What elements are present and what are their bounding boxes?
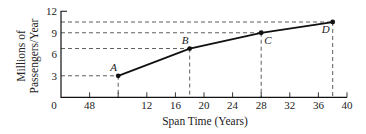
tick-labels: 481216202428323640036912 [46,5,353,111]
y-axis-title-line-2: Passengers/Year [28,18,41,93]
y-tick-label: 9 [52,27,58,39]
x-tick-label: 16 [170,99,182,111]
x-axis-title: Span Time (Years) [162,115,248,128]
data-point-d [330,20,335,25]
data-point-c [259,30,264,35]
x-tick-label: 28 [256,99,268,111]
y-tick-label: 6 [52,48,58,60]
point-label-c: C [264,34,272,46]
x-tick-label: 12 [141,99,152,111]
axis-frame [61,11,347,97]
x-tick-label: 36 [313,99,325,111]
x-tick-label: 20 [199,99,211,111]
x-tick-label: 40 [342,99,354,111]
data-point-b [187,46,192,51]
axes [61,11,347,97]
dashed-guides [61,22,333,97]
point-label-a: A [109,61,117,73]
tick-marks [90,92,347,97]
y-axis-title-line-1: Millions of [15,30,27,82]
x-tick-label: 48 [84,99,96,111]
point-label-b: B [182,34,189,46]
y-tick-label: 12 [46,5,57,17]
axis-titles: Span Time (Years) Millions of Passengers… [15,18,248,128]
data-point-a [116,73,121,78]
line-chart: 481216202428323640036912 ABCD Span Time … [0,0,366,134]
point-label-d: D [321,23,330,35]
x-tick-label: 32 [284,99,295,111]
point-labels: ABCD [109,23,330,73]
x-tick-label: 24 [227,99,239,111]
chart-canvas: 481216202428323640036912 ABCD Span Time … [0,0,366,134]
origin-label: 0 [51,99,57,111]
series-line [118,22,333,76]
y-tick-label: 3 [52,70,58,82]
